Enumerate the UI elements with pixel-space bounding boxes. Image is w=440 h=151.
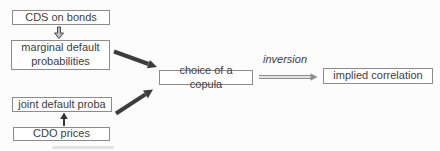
up-arrow bbox=[60, 113, 68, 127]
node-marginal-default-probabilities: marginal default probabilities bbox=[11, 40, 110, 70]
diagonal-arrow-top bbox=[114, 52, 157, 69]
inversion-edge-label: inversion bbox=[257, 53, 313, 65]
scan-artifact bbox=[52, 146, 114, 149]
down-block-arrow bbox=[55, 27, 64, 39]
node-cdo-prices: CDO prices bbox=[13, 127, 110, 141]
diagonal-arrow-bottom bbox=[116, 90, 153, 114]
node-cds-on-bonds: CDS on bonds bbox=[12, 10, 110, 25]
node-implied-correlation: implied correlation bbox=[323, 68, 433, 84]
node-joint-default-proba: joint default proba bbox=[12, 97, 112, 112]
inversion-arrow bbox=[259, 73, 318, 80]
node-choice-of-a-copula: choice of a copula bbox=[159, 70, 253, 85]
copula-flow-diagram: CDS on bonds marginal default probabilit… bbox=[0, 0, 440, 151]
